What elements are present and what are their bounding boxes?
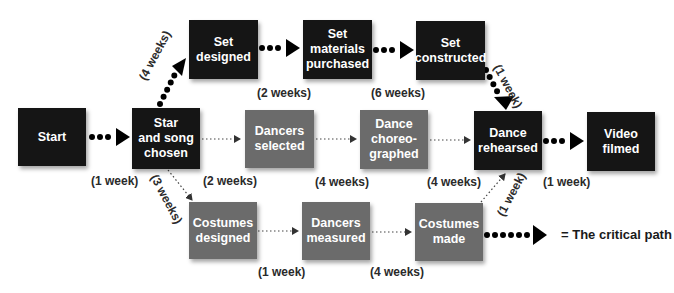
node-label: Costumes made [419, 217, 479, 247]
node-label: Costumes designed [193, 216, 253, 246]
arrowhead-icon [570, 132, 584, 150]
node-label: Dancers measured [306, 216, 365, 246]
duration-selected-choreographed: (4 weeks) [315, 175, 369, 189]
critical-edge-star-setdesigned [160, 72, 176, 104]
node-label: Set materials purchased [306, 27, 369, 72]
duration-materials-constructed: (6 weeks) [371, 86, 425, 100]
duration-costumesdesigned-measured: (1 week) [258, 265, 305, 279]
node-start: Start [18, 108, 86, 166]
node-dance-rehearsed: Dance rehearsed [474, 111, 542, 170]
arrowhead-icon [400, 41, 414, 59]
arrowhead-icon [116, 128, 130, 146]
legend-critical-path-label: = The critical path [561, 227, 672, 242]
node-label: Video filmed [603, 127, 640, 157]
arrowhead-icon [286, 39, 300, 57]
node-set-constructed: Set constructed [416, 21, 485, 80]
duration-choreographed-rehearsed: (4 weeks) [427, 175, 481, 189]
legend-arrowhead-icon [533, 225, 547, 245]
node-label: Star and song chosen [138, 116, 194, 161]
duration-star-dancersselected: (2 weeks) [203, 174, 257, 188]
node-video-filmed: Video filmed [587, 112, 655, 171]
node-star-and-song-chosen: Star and song chosen [132, 108, 200, 169]
node-label: Dance choreo- graphed [369, 117, 418, 162]
node-dancers-selected: Dancers selected [245, 110, 314, 168]
node-label: Dance rehearsed [478, 126, 538, 156]
node-label: Start [38, 130, 66, 145]
duration-measured-costumesmade: (4 weeks) [370, 265, 424, 279]
node-label: Dancers selected [254, 124, 304, 154]
node-dance-choreographed: Dance choreo- graphed [360, 110, 428, 169]
duration-rehearsed-filmed: (1 week) [543, 175, 590, 189]
node-set-materials-purchased: Set materials purchased [303, 20, 372, 79]
duration-start-star: (1 week) [91, 174, 138, 188]
duration-setdesigned-materials: (2 weeks) [257, 86, 311, 100]
node-costumes-made: Costumes made [415, 203, 483, 261]
node-set-designed: Set designed [189, 20, 258, 79]
node-label: Set constructed [415, 36, 487, 66]
node-dancers-measured: Dancers measured [302, 202, 370, 260]
node-label: Set designed [196, 35, 251, 65]
node-costumes-designed: Costumes designed [189, 202, 257, 259]
